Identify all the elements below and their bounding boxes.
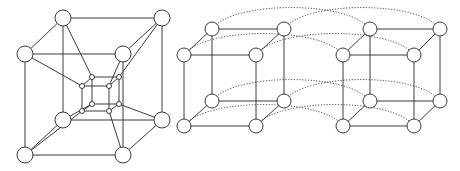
outer-node bbox=[115, 46, 131, 62]
right-cube-node bbox=[407, 119, 421, 133]
inner-node bbox=[80, 84, 85, 89]
dotted-arc bbox=[284, 80, 440, 101]
outer-node bbox=[154, 10, 170, 26]
connector-edge bbox=[63, 18, 92, 77]
dotted-arc bbox=[212, 80, 370, 101]
outer-node bbox=[17, 147, 33, 163]
dotted-arc bbox=[212, 8, 370, 29]
right-cube-node bbox=[433, 22, 447, 36]
inner-node bbox=[90, 102, 95, 107]
left-cube-node bbox=[205, 94, 219, 108]
right-cube-node bbox=[336, 119, 350, 133]
outer-node bbox=[55, 10, 71, 26]
left-cube-node bbox=[249, 119, 263, 133]
dotted-arc bbox=[184, 105, 343, 126]
right-cube-node bbox=[336, 48, 350, 62]
outer-node bbox=[17, 46, 33, 62]
left-cube-node bbox=[277, 22, 291, 36]
outer-node bbox=[154, 112, 170, 128]
left-cube-node bbox=[177, 48, 191, 62]
outer-node bbox=[115, 147, 131, 163]
diagram-canvas bbox=[0, 0, 460, 171]
dotted-arc bbox=[184, 34, 343, 55]
left-cube-node bbox=[249, 48, 263, 62]
left-cube-node bbox=[277, 94, 291, 108]
right-cube-node bbox=[363, 94, 377, 108]
connector-edge bbox=[25, 111, 82, 155]
inner-node bbox=[80, 109, 85, 114]
left-cube-node bbox=[205, 22, 219, 36]
dotted-arc bbox=[256, 105, 414, 126]
dotted-arc bbox=[256, 34, 414, 55]
cube-pair-diagram bbox=[177, 8, 447, 133]
inner-node bbox=[107, 84, 112, 89]
right-cube-node bbox=[363, 22, 377, 36]
inner-node bbox=[117, 75, 122, 80]
inner-node bbox=[117, 102, 122, 107]
right-cube-node bbox=[407, 48, 421, 62]
left-cube-node bbox=[177, 119, 191, 133]
tesseract-diagram bbox=[17, 10, 170, 163]
outer-node bbox=[55, 112, 71, 128]
connector-edge bbox=[25, 54, 82, 86]
right-cube-node bbox=[433, 94, 447, 108]
inner-node bbox=[90, 75, 95, 80]
inner-node bbox=[107, 109, 112, 114]
dotted-arc bbox=[284, 8, 440, 29]
